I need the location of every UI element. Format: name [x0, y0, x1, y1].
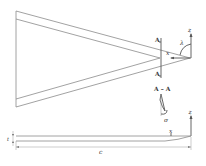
side-z-axis-arrow-icon: [190, 115, 193, 119]
outer-leading-edge-top: [16, 11, 190, 58]
z-axis-arrow-icon: [190, 33, 193, 37]
z-axis-label: z: [187, 26, 192, 33]
section-view: A – A σ: [153, 85, 171, 123]
planform-view: A A z x λ: [16, 11, 193, 107]
twist-angle-arc: [161, 110, 167, 114]
x-axis-arrow-icon: [170, 57, 174, 59]
side-x-axis-label: x: [169, 127, 173, 134]
chord-arrow-left-icon: [16, 146, 19, 148]
twist-angle-label: σ: [164, 116, 169, 123]
thickness-label: t: [7, 136, 10, 142]
side-z-axis-label: z: [188, 108, 193, 115]
inner-edge-top: [16, 19, 160, 58]
outer-leading-edge-bottom: [16, 58, 190, 107]
inner-edge-bottom: [16, 58, 160, 99]
delta-wing-diagram: A A z x λ A – A σ z x t: [0, 0, 206, 166]
chord-label: c: [99, 148, 103, 155]
thickness-arrow-bottom-icon: [12, 141, 14, 143]
chord-arrow-right-icon: [188, 146, 191, 148]
thickness-arrow-top-icon: [12, 134, 14, 136]
sweep-angle-label: λ: [179, 39, 184, 46]
section-title: A – A: [153, 85, 171, 92]
lower-surface: [16, 136, 191, 141]
